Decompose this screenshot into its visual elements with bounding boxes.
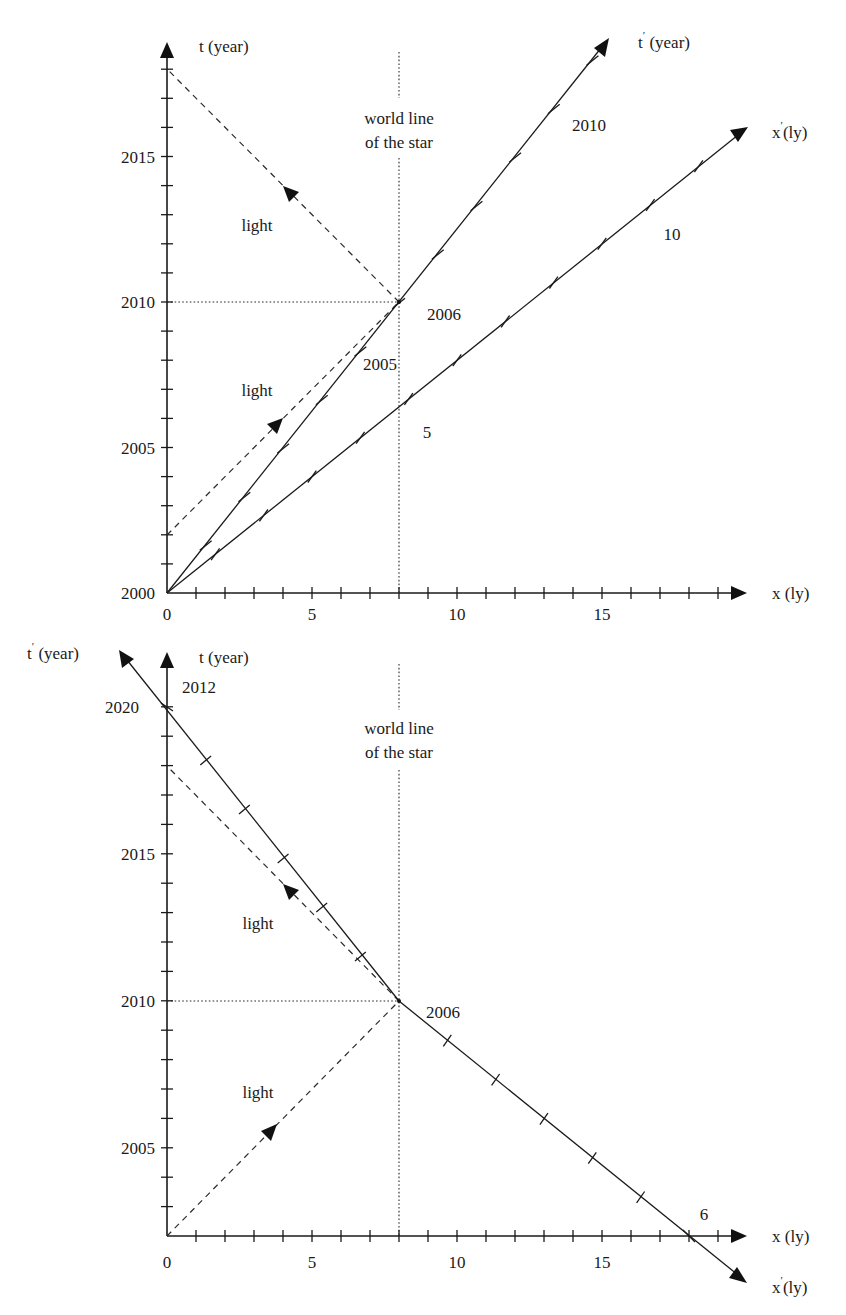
bottom-t-label-2015: 2015 (121, 845, 155, 864)
top-t-label-2005: 2005 (121, 439, 155, 458)
bottom-x-label-0: 0 (163, 1253, 172, 1272)
bottom-x-label-5: 5 (308, 1253, 317, 1272)
bottom-worldline-label-2: of the star (365, 743, 433, 762)
top-light-label-upper: light (241, 216, 272, 235)
top-x-prime-label-10: 10 (664, 225, 681, 244)
bottom-worldline-label-1: world line (364, 719, 433, 738)
top-worldline-label-1: world line (364, 109, 433, 128)
top-event-point (397, 300, 401, 304)
top-x-label-10: 10 (449, 605, 466, 624)
bottom-light-label-upper: light (242, 914, 273, 933)
top-t-prime-label-2010: 2010 (572, 116, 606, 135)
top-x-prime-label-5: 5 (423, 423, 432, 442)
top-t-label-2015: 2015 (121, 148, 155, 167)
top-x-label-15: 15 (594, 605, 611, 624)
bottom-t-prime-label-2006: 2006 (426, 1003, 460, 1022)
top-t-prime-axis-title: t′ (year) (638, 29, 690, 52)
top-x-prime-axis-title: x′(ly) (772, 119, 807, 142)
bottom-x-label-15: 15 (594, 1253, 611, 1272)
bottom-t-label-2010: 2010 (121, 992, 155, 1011)
top-t-label-2010: 2010 (121, 293, 155, 312)
top-t-label-2000: 2000 (121, 584, 155, 603)
top-light-label-lower: light (241, 381, 272, 400)
top-x-axis-title: x (ly) (772, 584, 809, 603)
top-x-label-0: 0 (163, 605, 172, 624)
bottom-t-axis-title: t (year) (199, 648, 249, 667)
bottom-event-point (397, 999, 401, 1003)
spacetime-figure: 2000 2005 2010 2015 0 5 10 15 t (year) x… (0, 0, 846, 1315)
top-worldline-label-2: of the star (365, 133, 433, 152)
top-x-label-5: 5 (308, 605, 317, 624)
top-t-prime-label-2006: 2006 (427, 305, 461, 324)
bottom-x-label-10: 10 (449, 1253, 466, 1272)
bottom-t-label-2005: 2005 (121, 1139, 155, 1158)
top-t-prime-label-2005: 2005 (363, 355, 397, 374)
bottom-t-prime-label-2012: 2012 (182, 678, 216, 697)
bottom-x-prime-axis-title: x′(ly) (772, 1274, 807, 1297)
top-t-axis-title: t (year) (199, 37, 249, 56)
bottom-t-label-2020: 2020 (105, 698, 139, 717)
bottom-light-label-lower: light (242, 1083, 273, 1102)
bottom-x-prime-label-6: 6 (700, 1205, 709, 1224)
bottom-x-axis-title: x (ly) (772, 1227, 809, 1246)
bottom-t-prime-axis-title: t′ (year) (27, 640, 79, 663)
